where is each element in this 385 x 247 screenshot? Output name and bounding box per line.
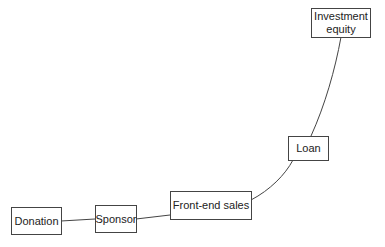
node-loan: Loan — [288, 136, 329, 161]
node-label: Front-end sales — [173, 199, 249, 212]
edge-sponsor-frontend — [136, 215, 170, 219]
node-label: Investment equity — [314, 10, 368, 36]
node-sponsor: Sponsor — [95, 205, 137, 233]
edge-frontend-loan — [251, 160, 293, 200]
node-label: Donation — [14, 215, 58, 228]
node-label: Sponsor — [96, 213, 137, 226]
edge-donation-sponsor — [61, 219, 95, 221]
node-investment-equity: Investment equity — [311, 8, 371, 38]
node-label: Loan — [296, 142, 320, 155]
node-front-end-sales: Front-end sales — [170, 191, 252, 220]
node-donation: Donation — [11, 207, 62, 235]
edge-loan-investment — [311, 37, 341, 136]
